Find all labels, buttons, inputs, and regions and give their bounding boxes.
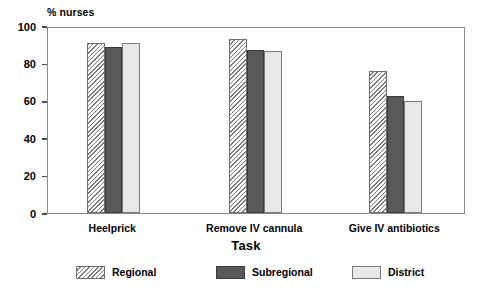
y-axis-tick-label: 60 — [2, 96, 36, 107]
y-axis-tick-label: 0 — [2, 209, 36, 220]
x-axis-label-1: Heelprick — [32, 222, 192, 234]
bar-district — [404, 101, 422, 213]
legend-label: Regional — [112, 267, 156, 278]
bar-chart: % nurses 020406080100 HeelprickRemove IV… — [0, 0, 492, 299]
legend-swatch-district-icon — [352, 266, 381, 279]
bar-regional — [229, 39, 247, 213]
bar-regional — [87, 43, 105, 213]
legend-swatch-subregional-icon — [216, 266, 245, 279]
legend-swatch-regional-icon — [76, 266, 105, 279]
x-axis-title: Task — [0, 238, 492, 253]
bar-regional — [369, 71, 387, 213]
y-axis-title: % nurses — [47, 6, 95, 18]
bar-district — [122, 43, 140, 213]
bar-subregional — [247, 50, 265, 213]
plot-area — [47, 27, 465, 214]
bar-subregional — [105, 47, 123, 213]
legend-label: District — [388, 267, 424, 278]
legend-label: Subregional — [252, 267, 313, 278]
y-axis-tick-label: 40 — [2, 134, 36, 145]
y-axis-tick-label: 20 — [2, 171, 36, 182]
legend-item-subregional: Subregional — [216, 266, 313, 279]
y-axis-tick-label: 80 — [2, 59, 36, 70]
legend-item-regional: Regional — [76, 266, 156, 279]
chart-legend: RegionalSubregionalDistrict — [0, 266, 492, 288]
bar-subregional — [387, 96, 405, 213]
x-axis-label-2: Remove IV cannula — [174, 222, 334, 234]
x-axis-label-3: Give IV antibiotics — [314, 222, 474, 234]
bar-district — [264, 51, 282, 213]
legend-item-district: District — [352, 266, 424, 279]
y-axis-tick-label: 100 — [2, 22, 36, 33]
